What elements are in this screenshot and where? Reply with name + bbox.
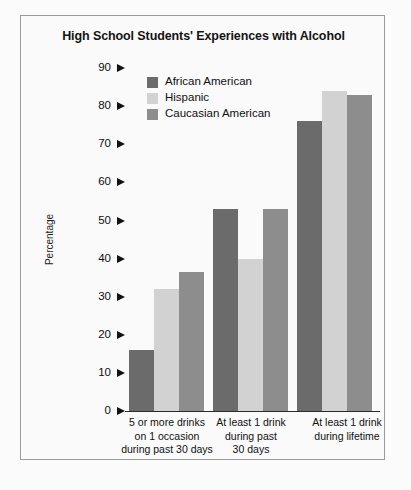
y-axis-tick: 20: [59, 328, 125, 342]
x-axis-line: [125, 411, 380, 412]
legend-item-hispanic: Hispanic: [147, 90, 270, 106]
bar-g3-african-american: [297, 121, 322, 411]
y-tick-label: 20: [98, 329, 111, 341]
y-tick-label: 40: [98, 253, 111, 265]
bar-g3-hispanic: [322, 91, 347, 411]
y-axis-tick: 80: [59, 99, 125, 113]
bar-g1-caucasian-american: [179, 272, 204, 411]
chart-card: High School Students' Experiences with A…: [20, 15, 385, 460]
legend-item-caucasian-american: Caucasian American: [147, 106, 270, 122]
y-axis-tick: 70: [59, 137, 125, 151]
x-axis-category-label-3: At least 1 drink during lifetime: [279, 416, 411, 443]
legend-swatch-icon: [147, 109, 158, 120]
y-tick-label: 80: [98, 100, 111, 112]
y-axis-tick: 60: [59, 175, 125, 189]
bar-g2-caucasian-american: [263, 209, 288, 411]
category-line: 30 days: [195, 443, 307, 457]
triangle-right-icon: [117, 217, 125, 225]
bar-g1-african-american: [129, 350, 154, 411]
legend-label: Hispanic: [165, 92, 209, 104]
triangle-right-icon: [117, 369, 125, 377]
triangle-right-icon: [117, 64, 125, 72]
triangle-right-icon: [117, 140, 125, 148]
y-axis-title: Percentage: [44, 190, 55, 290]
y-tick-label: 90: [98, 62, 111, 74]
y-tick-label: 70: [98, 138, 111, 150]
bar-g2-hispanic: [238, 259, 263, 411]
legend: African American Hispanic Caucasian Amer…: [147, 74, 270, 122]
bar-g2-african-american: [213, 209, 238, 411]
legend-swatch-icon: [147, 77, 158, 88]
triangle-right-icon: [117, 102, 125, 110]
y-axis-tick: 90: [59, 61, 125, 75]
plot-area: Percentage 90 80 70 60 50 40 30: [21, 16, 386, 461]
y-tick-label: 10: [98, 367, 111, 379]
y-axis-tick: 50: [59, 214, 125, 228]
bar-g1-hispanic: [154, 289, 179, 411]
y-axis-tick: 40: [59, 252, 125, 266]
triangle-right-icon: [117, 255, 125, 263]
triangle-right-icon: [117, 293, 125, 301]
legend-label: African American: [165, 76, 252, 88]
category-line: At least 1 drink: [279, 416, 411, 430]
bar-g3-caucasian-american: [347, 95, 372, 411]
y-tick-label: 50: [98, 215, 111, 227]
y-axis-tick: 10: [59, 366, 125, 380]
legend-label: Caucasian American: [165, 108, 270, 120]
legend-item-african-american: African American: [147, 74, 270, 90]
triangle-right-icon: [117, 331, 125, 339]
legend-swatch-icon: [147, 93, 158, 104]
triangle-right-icon: [117, 407, 125, 415]
y-tick-label: 60: [98, 176, 111, 188]
y-axis-tick: 30: [59, 290, 125, 304]
category-line: during lifetime: [279, 430, 411, 444]
triangle-right-icon: [117, 178, 125, 186]
y-tick-label: 30: [98, 291, 111, 303]
